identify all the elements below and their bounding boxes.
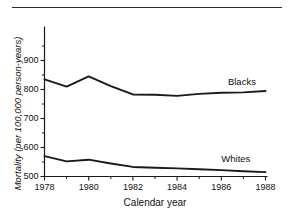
y-tick-label-600: 600: [13, 142, 39, 152]
x-tick-label-1984: 1984: [160, 182, 194, 192]
y-tick-label-700: 700: [13, 113, 39, 123]
series-label-whites: Whites: [221, 153, 250, 164]
y-tick-label-800: 800: [13, 84, 39, 94]
y-tick-label-500: 500: [13, 171, 39, 181]
x-tick-label-1988: 1988: [249, 182, 283, 192]
series-label-blacks: Blacks: [228, 76, 256, 87]
x-tick-label-1986: 1986: [204, 182, 238, 192]
figure-container: Mortality (per 100,000 person-years) Cal…: [0, 0, 292, 215]
x-tick-label-1982: 1982: [116, 182, 150, 192]
y-tick-label-900: 900: [13, 55, 39, 65]
x-tick-label-1980: 1980: [72, 182, 106, 192]
x-tick-label-1978: 1978: [28, 182, 62, 192]
